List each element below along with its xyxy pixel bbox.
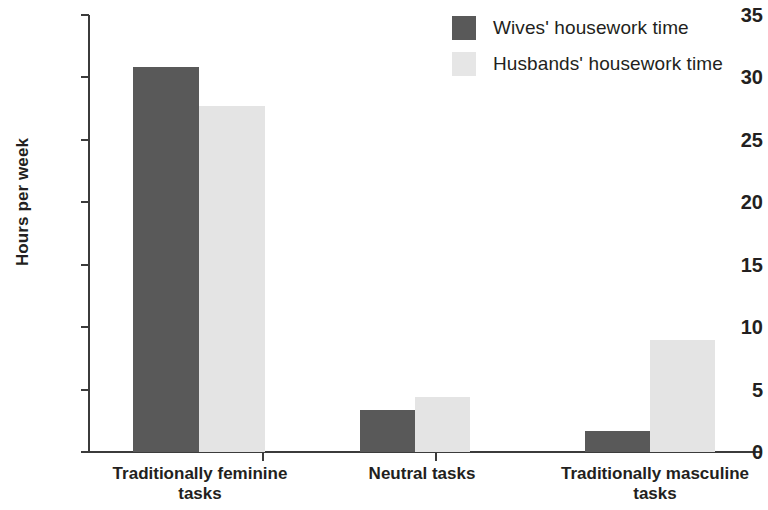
y-axis-tick-label: 10 [719,317,763,337]
legend-swatch-icon [452,16,476,40]
legend-item: Husbands' housework time [452,46,723,82]
y-axis-tick-label: 20 [719,192,763,212]
x-axis-category-label: Traditionally masculinetasks [530,464,768,504]
bar-husbands-group-1 [199,106,265,452]
y-axis-tick-label: 0 [719,442,763,462]
x-axis-category-label: Neutral tasks [322,464,522,484]
bar-husbands-group-2 [415,397,470,452]
y-axis-title: Hours per week [13,117,33,287]
y-axis-tick [81,76,89,78]
y-axis-tick-label: 25 [719,130,763,150]
y-axis-tick [81,451,89,453]
x-axis-tick [262,452,264,461]
y-axis-tick [81,201,89,203]
x-axis-category-label-line: tasks [530,484,768,504]
bar-wives-group-1 [133,67,199,452]
x-axis-category-label-line: Traditionally feminine [70,464,330,484]
x-axis-category-label-line: Traditionally masculine [530,464,768,484]
y-axis-tick-label: 15 [719,255,763,275]
y-axis-tick [81,14,89,16]
y-axis-tick-label: 30 [719,67,763,87]
bar-wives-group-3 [585,431,650,452]
x-axis-category-label-line: tasks [70,484,330,504]
y-axis-tick [81,389,89,391]
legend-swatch-icon [452,52,476,76]
y-axis-tick [81,264,89,266]
y-axis-line [88,15,90,453]
y-axis-tick-label: 35 [719,5,763,25]
x-axis-category-label: Traditionally femininetasks [70,464,330,504]
y-axis-tick [81,139,89,141]
legend-item-label: Husbands' housework time [493,53,723,75]
x-axis-category-label-line: Neutral tasks [322,464,522,484]
chart-legend: Wives' housework timeHusbands' housework… [452,10,723,82]
y-axis-tick [81,326,89,328]
legend-item: Wives' housework time [452,10,723,46]
y-axis-tick-label: 5 [719,380,763,400]
x-axis-tick [435,452,437,461]
legend-item-label: Wives' housework time [493,17,689,39]
bar-husbands-group-3 [650,340,715,452]
bar-wives-group-2 [360,410,415,452]
